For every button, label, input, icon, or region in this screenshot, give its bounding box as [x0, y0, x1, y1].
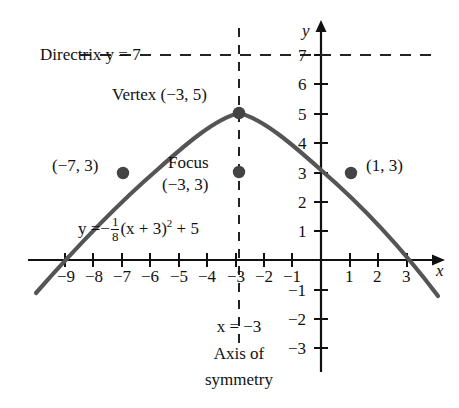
equation-fraction: 18 [111, 215, 120, 243]
fraction-denominator: 8 [111, 230, 120, 244]
focus-point [233, 166, 245, 178]
equation-lhs: y [78, 219, 87, 238]
y-axis-label: y [302, 22, 310, 39]
point-left [117, 167, 129, 179]
focus-coords-label: (−3, 3) [162, 176, 208, 193]
point-right-label: (1, 3) [366, 157, 403, 174]
equation-equals: = [91, 219, 101, 238]
y-tick-2: 2 [298, 194, 307, 211]
equation-sign: − [100, 219, 110, 238]
y-tick-1: 1 [298, 223, 307, 240]
x-tick-neg5: −5 [170, 268, 188, 285]
x-tick-neg4: −4 [198, 268, 216, 285]
directrix-label: Directrix y = 7 [40, 46, 141, 63]
fraction-numerator: 1 [111, 215, 120, 230]
x-tick-neg8: −8 [85, 268, 103, 285]
x-axis-label: x [436, 262, 444, 279]
equation-label: y =−18(x + 3)2 + 5 [78, 216, 199, 244]
x-tick-neg9: −9 [57, 268, 75, 285]
axis-of-symmetry-line1: Axis of [179, 345, 299, 362]
x-tick-1: 1 [345, 268, 354, 285]
x-tick-neg7: −7 [113, 268, 131, 285]
vertex-label: Vertex (−3, 5) [112, 86, 207, 103]
x-tick-neg6: −6 [141, 268, 159, 285]
x-tick-2: 2 [373, 268, 382, 285]
y-tick-6: 6 [298, 76, 307, 93]
y-tick-4: 4 [298, 135, 307, 152]
focus-label: Focus [168, 154, 209, 171]
x-tick-neg3: −3 [227, 268, 245, 285]
equation-body: (x + 3) [120, 219, 166, 238]
equation-exponent: 2 [167, 217, 173, 229]
equation-constant: + 5 [177, 219, 199, 238]
y-tick-7: 7 [298, 47, 307, 64]
point-left-label: (−7, 3) [52, 157, 98, 174]
axis-of-symmetry-line2: symmetry [179, 371, 299, 388]
parabola-figure: y x Directrix y = 7 Vertex (−3, 5) Focus… [0, 0, 459, 408]
axis-equation-label: x = −3 [179, 318, 299, 335]
vertex-point [233, 107, 245, 119]
y-tick-neg1: −1 [288, 282, 306, 299]
y-tick-5: 5 [298, 106, 307, 123]
x-tick-neg2: −2 [255, 268, 273, 285]
y-tick-3: 3 [298, 165, 307, 182]
point-right [345, 167, 357, 179]
x-tick-3: 3 [402, 268, 411, 285]
